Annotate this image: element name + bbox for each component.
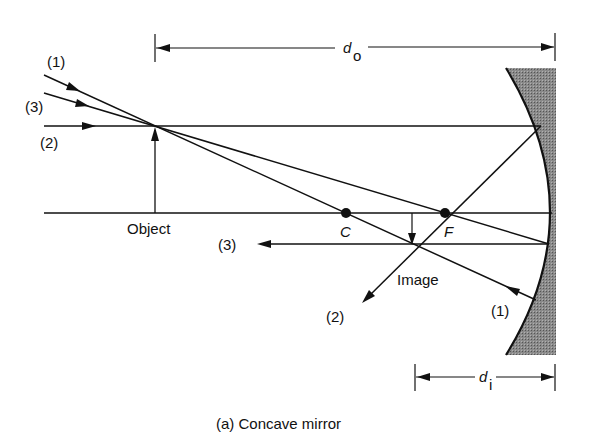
figure-caption: (a) Concave mirror bbox=[216, 415, 341, 432]
image-distance-dimension: d i bbox=[415, 364, 555, 393]
d-o-subscript: o bbox=[353, 47, 361, 64]
d-i-subscript: i bbox=[489, 376, 492, 393]
concave-mirror-diagram: d o Object Image C F (1) (3) (2) (3) bbox=[0, 0, 589, 436]
object-label: Object bbox=[127, 220, 171, 237]
ray-1 bbox=[44, 75, 536, 300]
ray-2-out-label: (2) bbox=[326, 308, 344, 325]
ray-3 bbox=[44, 93, 549, 248]
ray-2-in-label: (2) bbox=[40, 134, 58, 151]
ray-1-out-label: (1) bbox=[491, 302, 509, 319]
ray-1-in-label: (1) bbox=[47, 53, 65, 70]
d-o-label: d bbox=[343, 39, 352, 56]
ray-3-in-label: (3) bbox=[25, 98, 43, 115]
d-i-label: d bbox=[479, 368, 488, 385]
focal-point bbox=[440, 208, 450, 218]
image-arrow bbox=[408, 213, 416, 245]
center-of-curvature-point bbox=[341, 208, 351, 218]
focus-label: F bbox=[444, 223, 454, 240]
concave-mirror bbox=[506, 68, 556, 355]
object-arrow bbox=[151, 127, 159, 213]
center-label: C bbox=[340, 223, 351, 240]
image-label: Image bbox=[397, 271, 439, 288]
ray-3-out-label: (3) bbox=[218, 236, 236, 253]
object-distance-dimension: d o bbox=[155, 33, 555, 64]
